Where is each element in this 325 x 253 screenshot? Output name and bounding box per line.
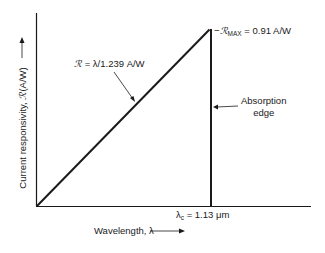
max-symbol: ℛ [220, 25, 228, 36]
slope-formula-label: ℛ = λ/1.239 A/W [74, 59, 145, 69]
formula-arrowhead-icon [130, 96, 135, 102]
responsivity-diagram [0, 0, 325, 253]
y-label-symbol: ℛ [17, 92, 28, 100]
cutoff-value: = 1.13 μm [184, 209, 229, 220]
formula-pointer-arrow [114, 72, 133, 99]
responsivity-slope-line [37, 30, 210, 207]
max-value: = 0.91 A/W [242, 25, 291, 36]
y-label-arrowhead-icon [20, 37, 25, 43]
y-label-unit: (A/W) [17, 67, 28, 91]
y-label-prefix: Current responsivity, [17, 100, 28, 189]
absorption-edge-pointer-arrow [217, 106, 238, 107]
formula-text: = λ/1.239 A/W [82, 58, 145, 69]
absorption-line2: edge [241, 107, 286, 119]
formula-symbol: ℛ [74, 58, 82, 69]
x-axis-label: Wavelength, λ [94, 226, 154, 236]
cutoff-wavelength-label: λc = 1.13 μm [176, 210, 229, 222]
wavelength-arrowhead-icon [179, 229, 185, 234]
max-responsivity-label: −ℛMAX = 0.91 A/W [214, 26, 291, 38]
absorption-edge-label: Absorption edge [241, 95, 286, 119]
absorption-arrowhead-icon [213, 105, 218, 110]
max-subscript: MAX [228, 30, 242, 37]
absorption-line1: Absorption [241, 95, 286, 107]
y-axis-label: Current responsivity, ℛ(A/W) [17, 67, 28, 188]
